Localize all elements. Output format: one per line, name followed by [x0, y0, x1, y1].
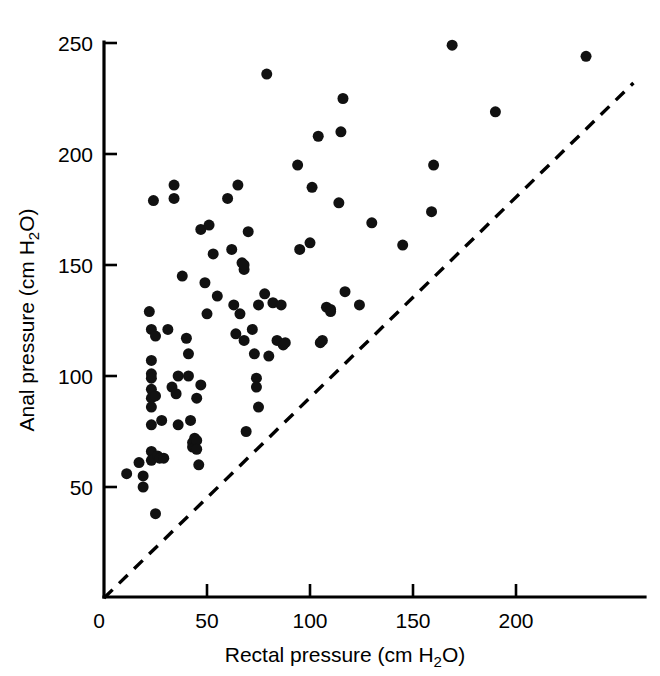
data-point [366, 217, 377, 228]
data-point [183, 348, 194, 359]
data-point [226, 244, 237, 255]
x-tick-label-150: 150 [395, 609, 430, 632]
y-axis-title: Anal pressure (cm H2O) [15, 208, 42, 431]
y-tick-label-250: 250 [58, 32, 93, 55]
data-point [249, 348, 260, 359]
data-point [171, 388, 182, 399]
x-axis-title-pre: Rectal pressure (cm H [225, 643, 434, 666]
data-point [280, 337, 291, 348]
data-point [169, 193, 180, 204]
data-point [177, 271, 188, 282]
y-axis-title-post: O) [15, 208, 38, 231]
data-point [138, 482, 149, 493]
data-point [426, 206, 437, 217]
y-tick-label-200: 200 [58, 143, 93, 166]
y-axis-title-subscript: 2 [25, 232, 42, 240]
data-point [325, 306, 336, 317]
y-tick-label-50: 50 [70, 476, 93, 499]
data-point [212, 291, 223, 302]
data-point [146, 402, 157, 413]
data-point [447, 40, 458, 51]
data-point [173, 371, 184, 382]
data-point [146, 355, 157, 366]
data-point [148, 195, 159, 206]
data-point [146, 373, 157, 384]
data-point [208, 248, 219, 259]
data-point [134, 457, 145, 468]
data-point [335, 126, 346, 137]
x-tick-labels: 0 50 100 150 200 [93, 609, 533, 632]
x-tick-label-100: 100 [292, 609, 327, 632]
data-point [191, 393, 202, 404]
scatter-points-layer [121, 40, 591, 519]
data-point [199, 277, 210, 288]
data-point [247, 324, 258, 335]
y-axis-title-pre: Anal pressure (cm H [15, 240, 38, 431]
data-point [150, 331, 161, 342]
data-point [239, 260, 250, 271]
x-axis-title: Rectal pressure (cm H2O) [225, 643, 466, 670]
data-point [333, 197, 344, 208]
data-point [307, 182, 318, 193]
data-point [232, 180, 243, 191]
data-point [259, 288, 270, 299]
data-point [263, 351, 274, 362]
data-point [121, 468, 132, 479]
y-tick-label-150: 150 [58, 254, 93, 277]
y-tick-marks [104, 43, 117, 487]
data-point [253, 299, 264, 310]
data-point [150, 390, 161, 401]
data-point [253, 402, 264, 413]
data-point [243, 226, 254, 237]
data-point [337, 93, 348, 104]
data-point [317, 335, 328, 346]
data-point [183, 371, 194, 382]
data-point [276, 299, 287, 310]
x-tick-label-200: 200 [498, 609, 533, 632]
scatter-plot-figure: 250 200 150 100 50 0 50 100 150 200 Rect… [0, 0, 660, 676]
data-point [228, 299, 239, 310]
data-point [241, 426, 252, 437]
data-point [313, 131, 324, 142]
y-tick-labels: 250 200 150 100 50 [58, 32, 93, 499]
data-point [158, 453, 169, 464]
data-point [581, 51, 592, 62]
data-point [169, 180, 180, 191]
data-point [162, 324, 173, 335]
data-point [138, 470, 149, 481]
data-point [144, 306, 155, 317]
data-point [428, 160, 439, 171]
data-point [222, 193, 233, 204]
x-tick-marks [207, 584, 516, 597]
data-point [397, 240, 408, 251]
data-point [340, 286, 351, 297]
data-point [185, 415, 196, 426]
data-point [156, 415, 167, 426]
data-point [195, 379, 206, 390]
data-point [150, 508, 161, 519]
data-point [261, 69, 272, 80]
plot-canvas: 250 200 150 100 50 0 50 100 150 200 Rect… [0, 0, 660, 676]
data-point [239, 335, 250, 346]
data-point [191, 444, 202, 455]
x-axis-title-post: O) [442, 643, 465, 666]
data-point [193, 459, 204, 470]
data-point [354, 299, 365, 310]
axes-group [104, 42, 645, 597]
data-point [294, 244, 305, 255]
data-point [202, 308, 213, 319]
data-point [173, 419, 184, 430]
data-point [181, 333, 192, 344]
data-point [305, 237, 316, 248]
x-axis-title-subscript: 2 [434, 653, 442, 670]
data-point [204, 220, 215, 231]
data-point [251, 382, 262, 393]
data-point [146, 419, 157, 430]
data-point [292, 160, 303, 171]
caption-fragment [22, 667, 322, 676]
x-tick-label-50: 50 [195, 609, 218, 632]
data-point [490, 106, 501, 117]
y-tick-label-100: 100 [58, 365, 93, 388]
x-tick-label-0: 0 [93, 609, 105, 632]
data-point [234, 308, 245, 319]
